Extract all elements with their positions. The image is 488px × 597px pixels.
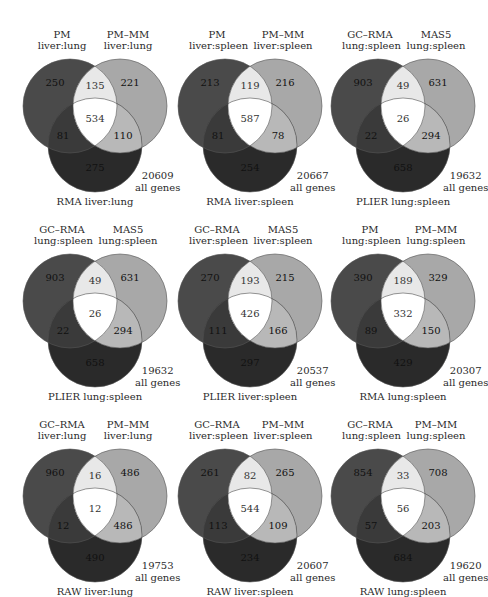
count-bc: 294 (113, 326, 132, 336)
set-a-label: GC–RMA liver:spleen (189, 419, 245, 441)
set-a-method: PM (189, 29, 245, 40)
set-b-comparison: lung:spleen (406, 235, 466, 246)
set-b-label: MAS5 lung:spleen (98, 224, 158, 246)
set-b-label: PM–MM lung:spleen (406, 419, 466, 441)
set-a-comparison: liver:spleen (189, 40, 245, 51)
count-abc: 587 (240, 114, 259, 124)
set-a-label: GC–RMA liver:lung (34, 419, 90, 441)
count-ab: 119 (240, 81, 259, 91)
count-c-only: 254 (240, 163, 259, 173)
set-a-method: GC–RMA (34, 419, 90, 430)
count-ac: 81 (57, 131, 70, 141)
count-ab: 49 (89, 276, 102, 286)
set-b-method: PM–MM (98, 419, 158, 430)
count-abc: 332 (393, 309, 412, 319)
set-a-label: PM liver:spleen (189, 29, 245, 51)
count-abc: 12 (89, 504, 102, 514)
set-b-method: MAS5 (406, 29, 466, 40)
count-ab: 16 (89, 471, 102, 481)
count-abc: 534 (85, 114, 104, 124)
set-b-method: PM–MM (406, 224, 466, 235)
total-genes: 19632 all genes (443, 170, 488, 194)
count-b-only: 329 (428, 273, 447, 283)
count-b-only: 221 (120, 78, 139, 88)
count-c-only: 297 (240, 358, 259, 368)
count-ab: 33 (397, 471, 410, 481)
count-bc: 109 (268, 521, 287, 531)
set-b-method: MAS5 (98, 224, 158, 235)
set-b-label: MAS5 liver:spleen (253, 224, 313, 246)
count-ac: 22 (365, 131, 378, 141)
count-bc: 486 (113, 521, 132, 531)
set-b-method: PM–MM (253, 419, 313, 430)
count-a-only: 903 (45, 273, 64, 283)
set-a-comparison: liver:lung (34, 40, 90, 51)
set-a-comparison: liver:lung (34, 430, 90, 441)
count-ab: 82 (244, 471, 257, 481)
count-c-only: 429 (393, 358, 412, 368)
set-b-label: PM–MM liver:lung (98, 419, 158, 441)
set-b-comparison: liver:spleen (253, 430, 313, 441)
set-a-label: GC–RMA lung:spleen (34, 224, 90, 246)
venn-panel: GC–RMA lung:spleen MAS5 lung:spleen 903 … (0, 195, 160, 390)
count-bc: 110 (113, 131, 132, 141)
count-ab: 135 (85, 81, 104, 91)
total-count: 19620 (443, 560, 488, 572)
count-c-only: 234 (240, 553, 259, 563)
set-a-label: GC–RMA lung:spleen (342, 29, 398, 51)
venn-panel: GC–RMA lung:spleen MAS5 lung:spleen 903 … (308, 0, 468, 195)
set-b-label: MAS5 lung:spleen (406, 29, 466, 51)
set-b-comparison: liver:spleen (253, 40, 313, 51)
count-c-only: 658 (85, 358, 104, 368)
count-bc: 294 (421, 131, 440, 141)
set-a-comparison: liver:spleen (189, 235, 245, 246)
set-b-method: PM–MM (253, 29, 313, 40)
set-a-label: GC–RMA liver:spleen (189, 224, 245, 246)
count-a-only: 390 (353, 273, 372, 283)
count-ab: 189 (393, 276, 412, 286)
count-ac: 57 (365, 521, 378, 531)
set-a-method: GC–RMA (34, 224, 90, 235)
set-a-comparison: lung:spleen (34, 235, 90, 246)
count-b-only: 486 (120, 468, 139, 478)
count-a-only: 960 (45, 468, 64, 478)
total-count: 20307 (443, 365, 488, 377)
count-b-only: 631 (428, 78, 447, 88)
set-a-comparison: liver:spleen (189, 430, 245, 441)
set-c-label: RAW lung:spleen (323, 586, 483, 597)
count-bc: 166 (268, 326, 287, 336)
count-a-only: 270 (200, 273, 219, 283)
count-a-only: 250 (45, 78, 64, 88)
count-a-only: 213 (200, 78, 219, 88)
venn-panel: PM lung:spleen PM–MM lung:spleen 390 189… (308, 195, 468, 390)
set-a-comparison: lung:spleen (342, 235, 398, 246)
set-b-method: MAS5 (253, 224, 313, 235)
venn-panel: GC–RMA lung:spleen PM–MM lung:spleen 854… (308, 390, 468, 585)
total-count: 19632 (443, 170, 488, 182)
set-a-comparison: lung:spleen (342, 430, 398, 441)
total-caption: all genes (443, 182, 488, 194)
count-c-only: 684 (393, 553, 412, 563)
count-ac: 89 (365, 326, 378, 336)
total-genes: 19620 all genes (443, 560, 488, 584)
count-a-only: 854 (353, 468, 372, 478)
count-abc: 26 (89, 309, 102, 319)
set-b-comparison: lung:spleen (98, 235, 158, 246)
count-abc: 26 (397, 114, 410, 124)
count-abc: 426 (240, 309, 259, 319)
set-a-label: PM liver:lung (34, 29, 90, 51)
count-a-only: 261 (200, 468, 219, 478)
set-a-method: GC–RMA (342, 419, 398, 430)
count-c-only: 490 (85, 553, 104, 563)
count-b-only: 631 (120, 273, 139, 283)
total-genes: 20307 all genes (443, 365, 488, 389)
set-a-comparison: lung:spleen (342, 40, 398, 51)
count-ac: 12 (57, 521, 70, 531)
set-b-label: PM–MM liver:lung (98, 29, 158, 51)
set-b-comparison: liver:spleen (253, 235, 313, 246)
venn-panel: GC–RMA liver:spleen MAS5 liver:spleen 27… (155, 195, 315, 390)
count-b-only: 215 (275, 273, 294, 283)
venn-panel: GC–RMA liver:lung PM–MM liver:lung 960 1… (0, 390, 160, 585)
venn-panel: PM liver:spleen PM–MM liver:spleen 213 1… (155, 0, 315, 195)
